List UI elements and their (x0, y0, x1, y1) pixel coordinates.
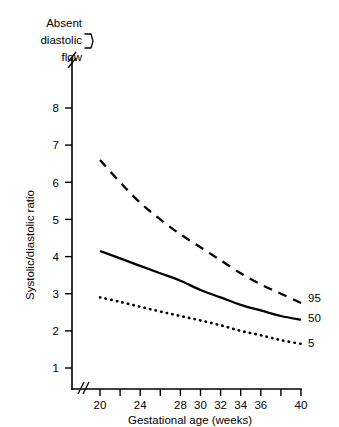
y-axis-ticks (65, 108, 72, 368)
x-tick-20: 20 (94, 399, 107, 411)
y-axis-title: Systolic/diastolic ratio (24, 190, 36, 300)
x-tick-24: 24 (134, 399, 147, 411)
x-axis-tick-labels: 20 24 28 30 32 34 36 40 (94, 399, 308, 411)
series-label-50: 50 (308, 312, 321, 324)
y-axis-tick-labels: 8 7 6 5 4 3 2 1 (53, 102, 60, 374)
x-tick-32: 32 (214, 399, 227, 411)
x-axis-title: Gestational age (weeks) (128, 414, 252, 426)
x-axis-break-icon (78, 382, 84, 394)
series-label-95: 95 (308, 292, 321, 304)
x-tick-30: 30 (194, 399, 207, 411)
y-tick-8: 8 (53, 102, 59, 114)
x-tick-34: 34 (234, 399, 247, 411)
curve-percentile-95 (100, 160, 301, 303)
absent-flow-line1: Absent (46, 17, 83, 29)
curve-percentile-5 (100, 297, 301, 343)
series-label-5: 5 (308, 337, 314, 349)
x-axis-ticks (100, 389, 301, 396)
y-tick-5: 5 (53, 214, 59, 226)
x-axis-break-icon-2 (83, 382, 89, 394)
y-tick-6: 6 (53, 177, 59, 189)
absent-flow-bracket-icon (85, 34, 93, 48)
absent-flow-line2: diastolic (40, 34, 82, 46)
chart-container: Absent diastolic flow 8 7 6 5 4 3 2 (0, 0, 339, 427)
curve-percentile-50 (100, 251, 301, 320)
x-tick-40: 40 (295, 399, 308, 411)
y-tick-3: 3 (53, 288, 59, 300)
x-tick-36: 36 (254, 399, 267, 411)
x-tick-28: 28 (174, 399, 187, 411)
y-tick-7: 7 (53, 139, 59, 151)
percentile-chart: Absent diastolic flow 8 7 6 5 4 3 2 (0, 0, 339, 427)
y-tick-4: 4 (53, 251, 60, 263)
y-tick-2: 2 (53, 325, 59, 337)
y-tick-1: 1 (53, 362, 59, 374)
